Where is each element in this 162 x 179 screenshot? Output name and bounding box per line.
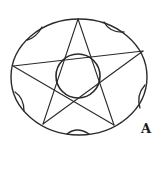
inner-circle xyxy=(56,54,100,98)
figure-label: A xyxy=(141,121,151,136)
notch-right xyxy=(139,85,145,108)
pentagram-diagram xyxy=(0,0,162,179)
notch-bottom xyxy=(67,130,89,134)
